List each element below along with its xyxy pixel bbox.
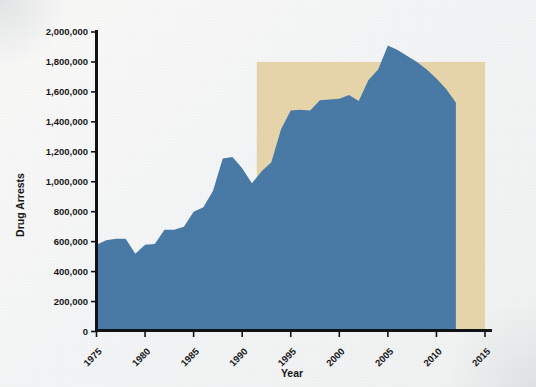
y-axis-tick-label: 600,000 — [54, 236, 88, 247]
y-axis-tick-label: 1,200,000 — [46, 146, 88, 157]
x-axis-tick-label: 1990 — [227, 346, 250, 369]
x-axis-ticks: 197519801985199019952000200520102015 — [81, 332, 493, 368]
x-axis-tick-label: 1995 — [275, 345, 298, 368]
x-axis-tick-label: 2015 — [470, 345, 493, 368]
y-axis-title: Drug Arrests — [14, 173, 26, 237]
y-axis-tick-label: 1,400,000 — [46, 116, 88, 127]
x-axis-tick-label: 1975 — [81, 345, 104, 368]
y-axis-ticks: 0200,000400,000600,000800,0001,000,0001,… — [46, 26, 96, 337]
y-axis-tick-label: 1,600,000 — [46, 86, 88, 97]
y-axis-tick-label: 0 — [83, 326, 88, 337]
y-axis-tick-label: 1,000,000 — [46, 176, 88, 187]
x-axis-tick-label: 2010 — [421, 346, 444, 369]
x-axis-title: Year — [281, 367, 303, 379]
x-axis-tick-label: 1980 — [130, 346, 153, 369]
x-axis-tick-label: 1985 — [178, 345, 201, 368]
y-axis-tick-label: 800,000 — [54, 206, 88, 217]
drug-arrests-area-chart: 0200,000400,000600,000800,0001,000,0001,… — [0, 0, 536, 387]
x-axis-tick-label: 2000 — [324, 346, 347, 369]
x-axis-tick-label: 2005 — [373, 345, 396, 368]
y-axis-tick-label: 200,000 — [54, 296, 88, 307]
y-axis-tick-label: 2,000,000 — [46, 26, 88, 37]
chart-canvas: 0200,000400,000600,000800,0001,000,0001,… — [0, 0, 536, 387]
y-axis-tick-label: 1,800,000 — [46, 56, 88, 67]
y-axis-tick-label: 400,000 — [54, 266, 88, 277]
